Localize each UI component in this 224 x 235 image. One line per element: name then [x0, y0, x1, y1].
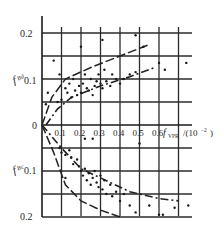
data-point [82, 174, 84, 176]
data-point [76, 94, 78, 96]
data-point [60, 99, 62, 101]
data-point [90, 78, 92, 80]
x-tick-label: 0.1 [55, 128, 66, 138]
data-point [64, 154, 66, 156]
data-point [134, 71, 136, 73]
data-point [80, 92, 82, 94]
data-point [68, 149, 70, 151]
data-point [95, 181, 97, 183]
data-point [101, 87, 103, 89]
y-tick-lower-0.2: 0.2 [20, 211, 33, 222]
data-point [66, 92, 68, 94]
data-point [105, 193, 107, 195]
x-tick-label: 0.4 [113, 128, 125, 138]
data-point [70, 96, 72, 98]
data-point [134, 34, 136, 36]
data-point [93, 170, 95, 172]
data-point [164, 69, 166, 71]
data-point [78, 85, 80, 87]
data-point [103, 69, 105, 71]
data-point [109, 85, 111, 87]
data-point [101, 188, 103, 190]
svg-text:): ) [210, 128, 213, 138]
data-point [88, 89, 90, 91]
data-point [95, 80, 97, 82]
data-point [58, 147, 60, 149]
data-point [60, 151, 62, 153]
data-point [148, 204, 150, 206]
data-point [92, 177, 94, 179]
data-point [123, 193, 125, 195]
data-point [93, 85, 95, 87]
data-point [80, 46, 82, 48]
data-point [97, 73, 99, 75]
data-point [162, 214, 164, 216]
data-point [64, 177, 66, 179]
data-point [158, 214, 160, 216]
data-point [99, 82, 101, 84]
data-point [80, 170, 82, 172]
svg-text:−2: −2 [201, 127, 207, 133]
svg-text:f: f [163, 127, 167, 138]
data-point [45, 103, 47, 105]
data-point [129, 73, 131, 75]
data-point [119, 82, 121, 84]
data-point [58, 73, 60, 75]
data-point [111, 195, 113, 197]
data-point [47, 92, 49, 94]
data-point [187, 204, 189, 206]
y-tick-upper-0.2: 0.2 [20, 28, 33, 39]
data-point [173, 207, 175, 209]
svg-text:VPR: VPR [168, 133, 179, 139]
y-tick-lower-0.1: 0.1 [24, 165, 37, 176]
y-tick-upper-0.1: 0.1 [24, 75, 37, 86]
data-point [185, 62, 187, 64]
data-point [158, 62, 160, 64]
data-point [88, 172, 90, 174]
svg-text:/(10: /(10 [183, 128, 198, 138]
data-point [76, 158, 78, 160]
data-point [138, 142, 140, 144]
x-tick-label: 0.5 [133, 128, 145, 138]
data-point [115, 191, 117, 193]
data-point [82, 82, 84, 84]
x-tick-label: 0.2 [74, 128, 85, 138]
data-point [97, 186, 99, 188]
data-point [64, 87, 66, 89]
data-point [92, 94, 94, 96]
data-point [111, 73, 113, 75]
dual-scatter-chart: 0.2 0.1 0.1 0.2 0 f Bd f Bc 0.10.20.30.4… [0, 0, 224, 235]
data-point [56, 101, 58, 103]
data-point [86, 179, 88, 181]
data-point [78, 165, 80, 167]
data-point [134, 211, 136, 213]
data-point [115, 78, 117, 80]
data-point [119, 200, 121, 202]
data-point [103, 179, 105, 181]
data-point [99, 174, 101, 176]
data-point [70, 156, 72, 158]
x-axis-title: f VPR /(10 −2 ) [163, 127, 213, 139]
grid [42, 27, 192, 217]
data-point [90, 184, 92, 186]
x-tick-label: 0.3 [94, 128, 106, 138]
origin-label: 0 [32, 120, 37, 131]
data-point [84, 168, 86, 170]
data-point [72, 163, 74, 165]
data-point [68, 82, 70, 84]
data-point [74, 89, 76, 91]
data-point [72, 78, 74, 80]
data-point [142, 46, 144, 48]
data-point [105, 80, 107, 82]
data-point [109, 184, 111, 186]
data-point [101, 39, 103, 41]
data-point [123, 78, 125, 80]
x-tick-labels: 0.10.20.30.40.50.6 [55, 128, 164, 138]
data-point [84, 73, 86, 75]
data-point [86, 87, 88, 89]
data-point [129, 204, 131, 206]
data-point [53, 59, 55, 61]
x-tick-label: 0.6 [152, 128, 164, 138]
